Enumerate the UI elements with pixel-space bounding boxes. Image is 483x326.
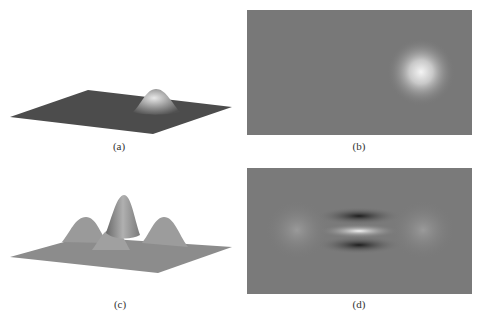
caption-a: (a) [99, 140, 139, 152]
panel-a-surface [0, 80, 240, 140]
caption-d: (d) [339, 298, 379, 310]
panel-c-surface [0, 195, 240, 290]
panel-d-image [247, 168, 472, 294]
caption-b: (b) [339, 140, 379, 152]
caption-c: (c) [100, 298, 140, 310]
panel-b-image [247, 10, 472, 135]
